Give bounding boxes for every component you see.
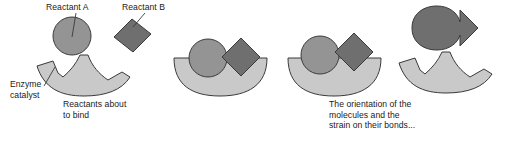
reactant-b-diamond-icon [114,19,151,52]
enzyme-catalyst-label: Enzyme catalyst [10,79,62,100]
reactant-b-label: Reactant B [122,2,165,13]
enzyme-catalysis-figure: Reactant A Enzyme catalyst Reactants abo… [0,0,526,144]
panel-3-transition-state: ...forces them into a transition state..… [280,0,394,144]
panel-3-artwork [280,0,394,99]
panel-2-orientation-and-strain: The orientation of the molecules and the… [163,0,280,144]
panel-4-artwork [394,0,526,99]
reactant-a-label: Reactant A [46,2,89,13]
enzyme-catalyst-open-icon [399,52,492,93]
reactant-a-circle-icon [301,36,339,74]
product-fused-molecule-icon [412,6,478,50]
reactant-a-circle-icon [189,39,227,77]
panel-4-product-released: ...they then react, requiring little ene… [394,0,526,144]
panel-1-reactants-about-to-bind: Reactant A Enzyme catalyst Reactants abo… [0,0,163,144]
panel-2-artwork [163,0,280,99]
panel-1-caption: Reactants about to bind [63,99,163,120]
